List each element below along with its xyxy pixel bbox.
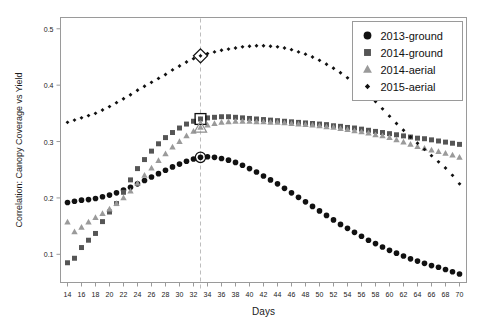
data-point	[394, 250, 400, 256]
data-point	[218, 119, 224, 125]
data-point	[373, 241, 379, 247]
data-point	[458, 182, 462, 186]
data-point	[254, 169, 260, 175]
data-point	[437, 160, 441, 164]
data-point	[219, 114, 224, 119]
data-point	[450, 141, 455, 146]
x-tick-label: 22	[120, 291, 128, 298]
data-point	[72, 256, 77, 261]
data-point	[219, 156, 225, 162]
data-point	[456, 154, 462, 160]
data-point	[247, 166, 253, 172]
x-tick-label: 62	[400, 291, 408, 298]
data-point	[155, 157, 161, 163]
legend-label: 2015-aerial	[381, 81, 436, 93]
data-point	[380, 244, 386, 250]
data-point	[64, 219, 70, 225]
data-point	[436, 264, 442, 270]
data-point	[178, 64, 182, 68]
x-tick-label: 48	[302, 291, 310, 298]
data-point	[79, 197, 85, 203]
data-point	[429, 137, 434, 142]
data-point	[318, 58, 322, 62]
data-point	[338, 222, 344, 228]
x-tick-label: 40	[246, 291, 254, 298]
data-point	[80, 116, 84, 120]
data-point	[114, 190, 120, 196]
x-tick-label: 42	[260, 291, 268, 298]
data-point	[451, 173, 455, 177]
data-point	[428, 147, 434, 153]
data-point	[261, 173, 267, 179]
x-tick-label: 16	[78, 291, 86, 298]
x-tick-label: 38	[232, 291, 240, 298]
data-point	[402, 128, 406, 132]
data-point	[443, 267, 449, 273]
data-point	[93, 196, 99, 202]
data-point	[387, 248, 393, 254]
data-point	[148, 165, 154, 171]
x-tick-label: 50	[316, 291, 324, 298]
data-point	[213, 50, 217, 54]
data-point	[108, 105, 112, 109]
x-tick-label: 60	[386, 291, 394, 298]
data-point	[408, 256, 414, 262]
data-point	[212, 155, 218, 161]
data-point	[211, 120, 217, 126]
data-point	[162, 151, 168, 157]
data-point	[345, 226, 351, 232]
data-point	[339, 71, 343, 75]
data-point	[100, 194, 106, 200]
data-point	[66, 120, 70, 124]
data-point	[65, 200, 71, 206]
data-point	[303, 199, 309, 205]
data-point	[393, 137, 399, 143]
data-point	[73, 118, 77, 122]
legend-label: 2014-aerial	[381, 64, 436, 76]
data-point	[401, 133, 406, 138]
data-point	[184, 122, 189, 127]
y-tick-label: 0.2	[44, 195, 54, 202]
data-point	[332, 66, 336, 70]
data-point	[325, 62, 329, 66]
data-point	[234, 46, 238, 50]
x-tick-label: 58	[372, 291, 380, 298]
data-point	[93, 231, 98, 236]
data-point	[86, 197, 92, 203]
data-point	[240, 162, 246, 168]
data-point	[115, 101, 119, 105]
data-point	[324, 213, 330, 219]
data-point	[163, 135, 168, 140]
x-tick-label: 56	[358, 291, 366, 298]
data-point	[121, 190, 126, 195]
data-point	[225, 118, 231, 124]
data-point	[457, 271, 463, 277]
data-point	[381, 107, 385, 111]
data-point	[184, 158, 190, 164]
data-point	[120, 195, 126, 201]
data-point	[352, 230, 358, 236]
y-tick-label: 0.3	[44, 139, 54, 146]
data-point	[135, 166, 140, 171]
data-point	[170, 130, 175, 135]
data-point	[262, 44, 266, 48]
data-point	[150, 80, 154, 84]
data-point	[401, 253, 407, 259]
data-point	[106, 206, 112, 212]
x-tick-label: 28	[162, 291, 170, 298]
x-tick-label: 36	[218, 291, 226, 298]
data-point	[395, 122, 399, 126]
x-tick-label: 66	[428, 291, 436, 298]
y-tick-label: 0.4	[44, 82, 54, 89]
data-point	[85, 219, 91, 225]
x-tick-label: 52	[330, 291, 338, 298]
data-point	[364, 49, 371, 56]
x-tick-label: 32	[190, 291, 198, 298]
data-point	[99, 210, 105, 216]
x-tick-label: 30	[176, 291, 184, 298]
data-point	[297, 50, 301, 54]
data-point	[435, 148, 441, 154]
data-point	[143, 84, 147, 88]
data-point	[444, 166, 448, 170]
data-point	[122, 97, 126, 101]
